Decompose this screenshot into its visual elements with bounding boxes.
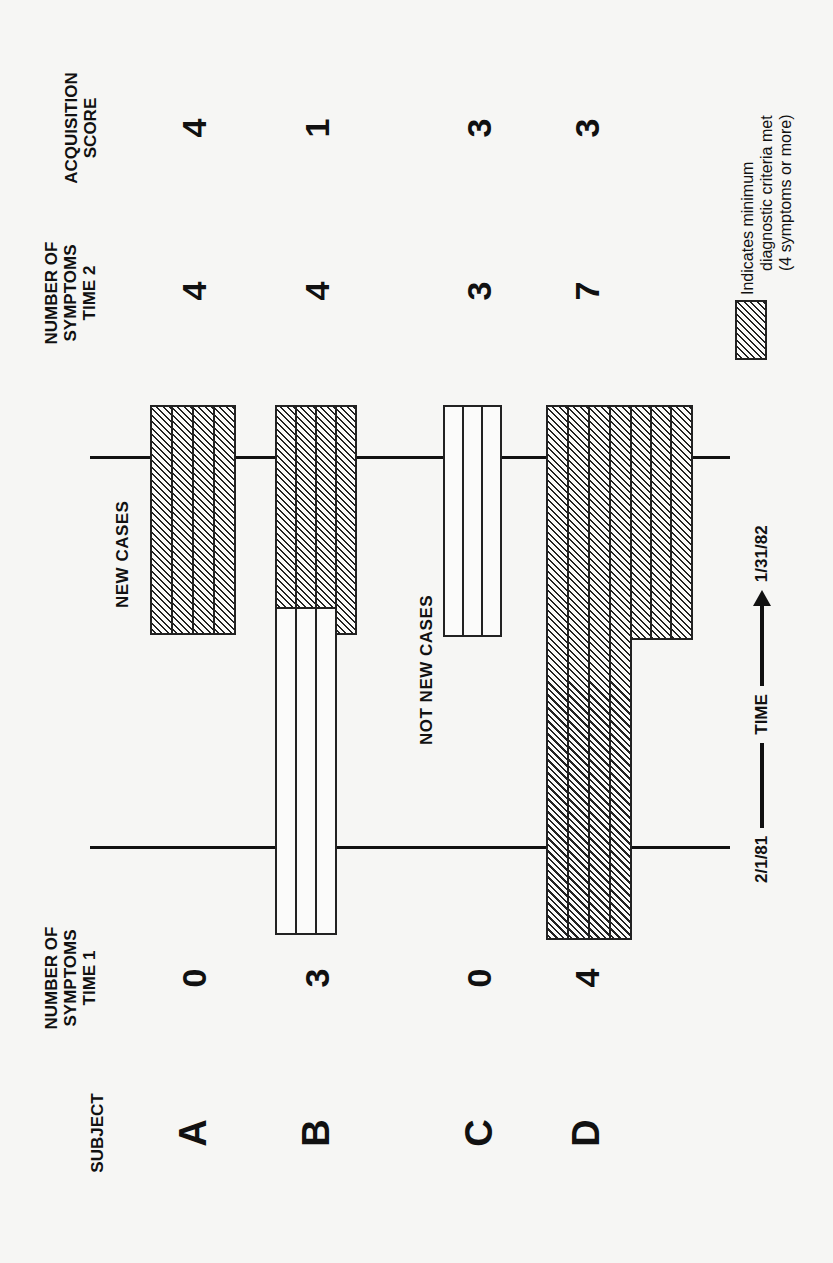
- legend-line3: (4 symptoms or more): [776, 115, 795, 295]
- subject-b-symptom-lane-hatched: [295, 405, 317, 609]
- subject-d-symptom-lane: [630, 405, 652, 640]
- time1-header-line1: NUMBER OF: [42, 908, 61, 1048]
- acquisition-header-line2: SCORE: [81, 53, 100, 203]
- subject-d-symptom-lane: [609, 405, 632, 940]
- time2-header-line1: NUMBER OF: [42, 223, 61, 363]
- subject-a-symptom-lane: [171, 405, 194, 635]
- subject-b-symptom-lane-hatched: [315, 405, 337, 609]
- subject-b-symptom-lane-open: [295, 605, 317, 935]
- subject-header: SUBJECT: [88, 1078, 107, 1188]
- subject-a-time2: 4: [177, 261, 211, 321]
- legend-text: Indicates minimum diagnostic criteria me…: [738, 115, 795, 295]
- start-date-label: 2/1/81: [752, 836, 772, 883]
- subject-d-symptom-lane: [546, 405, 569, 940]
- time2-header: NUMBER OF SYMPTOMS TIME 2: [42, 223, 99, 363]
- subject-d-symptom-lane: [650, 405, 672, 640]
- end-date-label: 1/31/82: [752, 525, 772, 582]
- subject-a-acquisition: 4: [177, 98, 211, 158]
- subject-c-acquisition: 3: [462, 98, 496, 158]
- subject-header-text: SUBJECT: [88, 1093, 107, 1172]
- time1-header-line3: TIME 1: [80, 908, 99, 1048]
- time-axis: 2/1/81 TIME 1/31/82: [750, 433, 774, 883]
- subject-a-time1: 0: [177, 948, 211, 1008]
- subject-d-label: D: [567, 1103, 605, 1163]
- subject-d-symptom-lane: [567, 405, 590, 940]
- subject-d-symptom-lane: [588, 405, 611, 940]
- arrow-right-icon: [753, 590, 771, 606]
- legend-hatch-swatch: [735, 300, 767, 360]
- legend-line2: diagnostic criteria met: [757, 115, 776, 295]
- subject-c-time1: 0: [462, 948, 496, 1008]
- subject-c-symptom-lane: [443, 405, 464, 637]
- subject-b-label: B: [297, 1103, 335, 1163]
- subject-d-symptom-lane: [670, 405, 693, 640]
- time2-header-line2: SYMPTOMS: [61, 223, 80, 363]
- subject-b-symptom-lane-hatched: [275, 405, 297, 609]
- subject-b-symptom-lane-hatched: [335, 405, 357, 635]
- acquisition-header: ACQUISITION SCORE: [62, 53, 100, 203]
- subject-c-symptom-lane: [462, 405, 483, 637]
- subject-d-acquisition: 3: [570, 98, 604, 158]
- time1-header-line2: SYMPTOMS: [61, 908, 80, 1048]
- subject-b-symptom-lane-open: [315, 605, 337, 935]
- symptom-acquisition-diagram: SUBJECT NUMBER OF SYMPTOMS TIME 1 NUMBER…: [0, 0, 833, 1263]
- not-new-cases-label: NOT NEW CASES: [417, 595, 437, 745]
- subject-d-time1: 4: [570, 948, 604, 1008]
- subject-b-symptom-lane-open: [275, 605, 297, 935]
- subject-c-symptom-lane: [481, 405, 502, 637]
- time2-header-line3: TIME 2: [80, 223, 99, 363]
- subject-d-time2: 7: [570, 261, 604, 321]
- time-axis-line-left: [760, 743, 764, 828]
- subject-a-symptom-lane: [213, 405, 236, 635]
- new-cases-label: NEW CASES: [113, 501, 133, 608]
- subject-c-label: C: [460, 1103, 498, 1163]
- time1-header: NUMBER OF SYMPTOMS TIME 1: [42, 908, 99, 1048]
- subject-b-time1: 3: [300, 948, 334, 1008]
- subject-b-time2: 4: [300, 261, 334, 321]
- subject-a-symptom-lane: [150, 405, 173, 635]
- time-label: TIME: [752, 694, 772, 735]
- subject-c-time2: 3: [462, 261, 496, 321]
- subject-a-symptom-lane: [192, 405, 215, 635]
- time-axis-line-right: [760, 606, 764, 686]
- subject-b-acquisition: 1: [300, 98, 334, 158]
- legend-line1: Indicates minimum: [738, 115, 757, 295]
- start-date-line: [90, 846, 730, 849]
- subject-a-label: A: [174, 1103, 212, 1163]
- acquisition-header-line1: ACQUISITION: [62, 53, 81, 203]
